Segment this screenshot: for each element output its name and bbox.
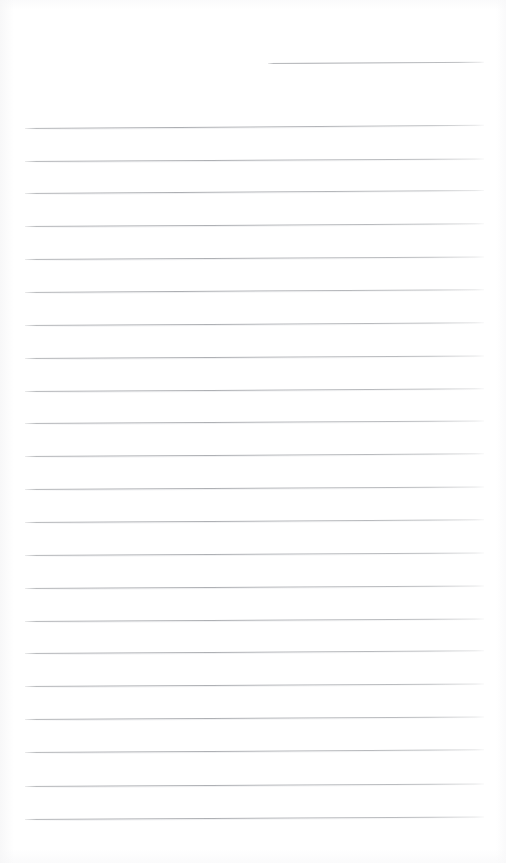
ruled-line	[25, 619, 484, 622]
ruled-line	[25, 421, 484, 424]
ruled-line	[25, 684, 484, 687]
ruled-line	[25, 356, 484, 359]
ruled-line	[25, 553, 484, 556]
ruled-line	[25, 585, 484, 589]
ruled-line	[25, 453, 484, 457]
ruled-line	[25, 223, 484, 227]
ruled-line	[25, 487, 484, 490]
ruled-line	[25, 650, 484, 654]
ruled-line	[25, 257, 484, 260]
ruled-line	[25, 158, 484, 162]
ruled-line	[25, 519, 484, 523]
ruled-line	[25, 784, 484, 787]
ruled-line	[25, 322, 484, 326]
ruled-line	[25, 190, 484, 194]
ruled-line	[25, 125, 484, 129]
header-date-rule	[268, 62, 484, 64]
ruled-line	[25, 717, 484, 720]
ruled-line	[25, 749, 484, 753]
scanned-page	[0, 0, 506, 863]
ruled-line	[25, 817, 484, 820]
ruled-line	[25, 289, 484, 293]
ruled-line	[25, 388, 484, 392]
